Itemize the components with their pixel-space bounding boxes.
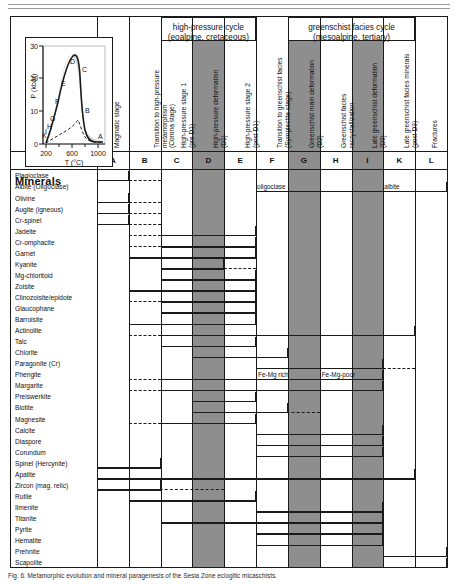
range-bar-b-e	[129, 257, 256, 258]
caption-line: Magmatic stage	[113, 101, 121, 148]
column-divider-1	[129, 17, 130, 567]
mineral-name: Hematite	[15, 537, 41, 544]
range-bar-c-e	[161, 301, 256, 302]
mineral-name: Zoisite	[15, 283, 34, 290]
range-bar-cap-start	[161, 326, 162, 336]
svg-text:D: D	[70, 58, 75, 65]
range-bar-cap-start	[192, 403, 193, 413]
svg-text:P (kbar): P (kbar)	[30, 74, 38, 99]
range-bar-b-b	[129, 202, 161, 203]
range-bar-cap-start	[161, 270, 162, 280]
range-bar-f-i	[256, 445, 383, 446]
mineral-name: Spinel (Hercynite)	[15, 460, 67, 467]
column-caption-l: Fractures	[431, 120, 439, 148]
mineral-name: Kyanite	[15, 261, 37, 268]
mineral-name: Augite (igneous)	[15, 206, 63, 213]
range-bar-cap-end	[255, 303, 256, 313]
column-caption-d: High-pressure deformation(D1)	[212, 70, 227, 148]
column-letter-i: I	[352, 156, 384, 165]
range-bar-f-i	[256, 434, 383, 435]
range-bar-cap-end	[446, 182, 447, 192]
mineral-name: Garnet	[15, 250, 35, 257]
caption-line: metamorphism	[160, 70, 168, 148]
range-bar-b-e	[129, 290, 256, 291]
range-bar-cap-start	[256, 535, 257, 545]
mineral-name: Prehnite	[15, 548, 40, 555]
range-bar-cap-start	[256, 436, 257, 446]
range-bar-cap-end	[382, 524, 383, 534]
caption-line: Fractures	[431, 120, 439, 148]
column-letter-h: H	[320, 156, 352, 165]
svg-text:T (°C): T (°C)	[65, 159, 84, 167]
range-bar-b-b	[129, 301, 161, 302]
svg-text:600: 600	[66, 150, 78, 157]
bar-annotation: Fe-Mg-poor	[322, 371, 355, 378]
range-bar-cap-start	[161, 303, 162, 313]
range-bar-cap-start	[129, 491, 130, 501]
svg-text:30: 30	[30, 43, 38, 50]
range-bar-cap-end	[255, 281, 256, 291]
mineral-name: Albite (Oligoclase)	[15, 183, 69, 190]
top-rule-1	[8, 4, 450, 5]
range-bar-cap-end	[255, 226, 256, 236]
group-header-gs-cycle: greenschist facies cycle(mesoalpine, ter…	[288, 17, 415, 41]
range-bar-cap-end	[446, 558, 447, 568]
column-letter-f: F	[256, 156, 288, 165]
range-bar-cap-end	[414, 469, 415, 479]
range-bar-cap-start	[161, 370, 162, 380]
range-bar-f-g	[256, 412, 320, 413]
range-bar-f-i	[256, 533, 383, 534]
range-bar-c-e	[161, 423, 256, 424]
column-letter-c: C	[161, 156, 193, 165]
column-caption-f: Transition to greenschist facies(Symplec…	[276, 57, 291, 148]
caption-line: High-pressure stage 2	[244, 83, 252, 148]
range-bar-b-d	[129, 489, 224, 490]
mineral-name: Plagioclase	[15, 172, 49, 179]
range-bar-cap-end	[255, 314, 256, 324]
range-bar-cap-end	[382, 381, 383, 391]
range-bar-cap-start	[256, 447, 257, 457]
caption-line: (D3)	[379, 63, 387, 148]
range-bar-a-a	[97, 180, 129, 181]
column-letter-g: G	[288, 156, 320, 165]
mineral-name: Biotite	[15, 404, 33, 411]
mineral-name: Calcite	[15, 427, 35, 434]
range-bar-c-e	[161, 235, 256, 236]
range-bar-a-b	[97, 467, 161, 468]
range-bar-cap-start	[161, 337, 162, 347]
range-bar-cap-start	[161, 237, 162, 247]
mineral-name: Talc	[15, 338, 27, 345]
range-bar-cap-start	[192, 348, 193, 358]
group-header-line1: high-pressure cycle	[162, 23, 255, 33]
range-bar-cap-start	[161, 513, 162, 523]
range-bar-a-k	[97, 478, 415, 479]
caption-line: (D1)	[220, 70, 228, 148]
range-bar-cap-end	[255, 337, 256, 347]
caption-line: (pre D1)	[188, 83, 196, 148]
svg-text:E: E	[61, 80, 66, 87]
range-bar-b-b	[129, 423, 161, 424]
range-bar-f-l	[256, 191, 447, 192]
caption-line: High-pressure deformation	[212, 70, 220, 148]
range-bar-cap-start	[256, 359, 257, 369]
caption-line: Greenschist facies	[340, 94, 348, 148]
caption-line: (Symplectite stage)	[283, 57, 291, 148]
range-bar-b-b	[129, 213, 161, 214]
range-bar-cap-end	[255, 414, 256, 424]
range-bar-cap-start	[192, 392, 193, 402]
range-bar-cap-start	[161, 414, 162, 424]
caption-line: Transition to high-pressure	[153, 70, 161, 148]
column-caption-h: Greenschist faciesrecrystallization	[340, 94, 355, 148]
range-bar-cap-end	[255, 270, 256, 280]
range-bar-f-i	[256, 545, 383, 546]
caption-line: (Corona stage)	[168, 70, 176, 148]
range-bar-b-b	[129, 390, 161, 391]
range-bar-cap-start	[256, 425, 257, 435]
mineral-name: Preiswerkite	[15, 393, 51, 400]
hline-below-letters	[11, 169, 447, 170]
column-caption-g: Greenschist main deformation(D2)	[308, 60, 323, 148]
caption-line: recrystallization	[347, 94, 355, 148]
range-bar-k-k	[383, 368, 415, 369]
range-bar-d-e	[192, 401, 256, 402]
range-bar-c-i	[161, 390, 384, 391]
